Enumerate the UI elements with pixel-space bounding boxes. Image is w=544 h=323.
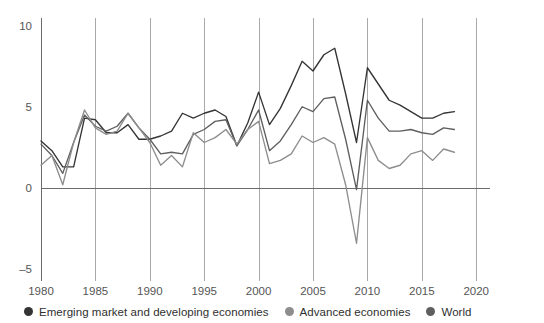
line-chart-plot: 1050–5 198019851990199520002005201020152… <box>0 0 544 300</box>
x-tick-label: 1990 <box>137 285 163 297</box>
legend-item[interactable]: World <box>426 306 471 318</box>
y-tick-label: 0 <box>26 182 32 194</box>
legend-item-label: Emerging market and developing economies <box>39 306 269 318</box>
y-tick-label-layer: 1050–5 <box>19 20 32 276</box>
legend-item-label: Advanced economies <box>300 306 411 318</box>
series-layer <box>41 48 454 243</box>
chart-figure: 1050–5 198019851990199520002005201020152… <box>0 0 544 323</box>
series-line <box>41 48 454 167</box>
y-tick-label: –5 <box>19 263 32 275</box>
x-tick-label: 2000 <box>246 285 272 297</box>
x-tick-label: 2020 <box>463 285 489 297</box>
y-tick-label: 5 <box>26 101 32 113</box>
x-tick-label: 1985 <box>83 285 109 297</box>
legend-item[interactable]: Emerging market and developing economies <box>24 306 269 318</box>
legend-dot-icon <box>285 307 294 316</box>
x-tick-label: 2010 <box>355 285 381 297</box>
x-tick-label: 1980 <box>28 285 54 297</box>
x-tick-label: 2005 <box>300 285 326 297</box>
legend-item[interactable]: Advanced economies <box>285 306 411 318</box>
x-tick-label: 1995 <box>191 285 217 297</box>
legend-dot-icon <box>24 307 33 316</box>
series-line <box>41 97 454 190</box>
legend-dot-icon <box>426 307 435 316</box>
y-tick-label: 10 <box>19 20 32 32</box>
x-tick-label: 2015 <box>409 285 435 297</box>
x-tick-label-layer: 198019851990199520002005201020152020 <box>28 285 489 297</box>
chart-legend: Emerging market and developing economies… <box>0 300 544 323</box>
legend-item-label: World <box>441 306 471 318</box>
